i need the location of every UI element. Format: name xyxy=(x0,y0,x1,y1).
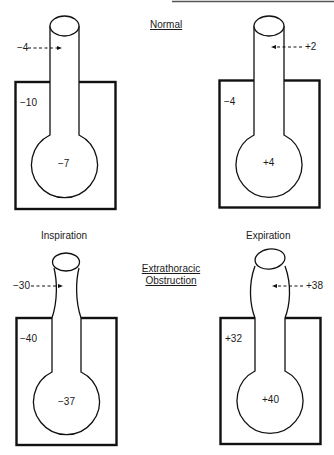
airway-pressure-label: −4 xyxy=(17,42,28,53)
airway-opening-ellipse xyxy=(50,16,79,36)
pleural-pressure-label: −10 xyxy=(20,97,37,108)
airway-opening-ellipse xyxy=(254,16,284,36)
heading-normal: Normal xyxy=(150,19,182,30)
airway-lung-outline xyxy=(236,26,302,197)
heading-expiration: Expiration xyxy=(246,230,290,241)
narrowed-airway-lung-outline xyxy=(34,268,100,435)
airway-pressure-label: −30 xyxy=(13,280,30,291)
heading-inspiration: Inspiration xyxy=(41,230,87,241)
pleural-pressure-label: −40 xyxy=(20,333,37,344)
heading-extrathoracic-obstruction: Extrathoracic Obstruction xyxy=(136,263,206,287)
airway-pressure-diagram xyxy=(0,0,334,455)
panel-obstruction-inspiration xyxy=(17,253,117,445)
airway-pressure-label: +38 xyxy=(306,280,323,291)
panel-normal-inspiration xyxy=(16,16,116,209)
panel-obstruction-expiration xyxy=(221,247,321,444)
alveolar-pressure-label: −37 xyxy=(58,396,75,407)
pleural-pressure-label: −4 xyxy=(224,96,235,107)
heading-obstruction-line2: Obstruction xyxy=(136,275,206,287)
airway-opening-ellipse xyxy=(53,253,80,271)
heading-obstruction-line1: Extrathoracic xyxy=(136,263,206,275)
alveolar-pressure-label: +4 xyxy=(263,157,274,168)
airway-pressure-label: +2 xyxy=(305,41,316,52)
ballooned-airway-lung-outline xyxy=(237,266,303,433)
airway-lung-outline xyxy=(32,26,98,198)
alveolar-pressure-label: +40 xyxy=(262,394,279,405)
pleural-pressure-label: +32 xyxy=(225,333,242,344)
alveolar-pressure-label: −7 xyxy=(58,158,69,169)
